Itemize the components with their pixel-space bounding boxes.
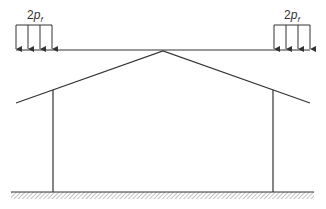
left-load-group: 2pf bbox=[16, 8, 52, 49]
ground-hatching bbox=[11, 192, 314, 199]
right-load-group: 2pf bbox=[274, 8, 310, 49]
portal-frame-diagram: 2pf 2pf bbox=[0, 0, 326, 209]
roof-line bbox=[16, 51, 310, 103]
left-load-label: 2pf bbox=[27, 8, 43, 24]
right-load-label: 2pf bbox=[284, 8, 300, 24]
